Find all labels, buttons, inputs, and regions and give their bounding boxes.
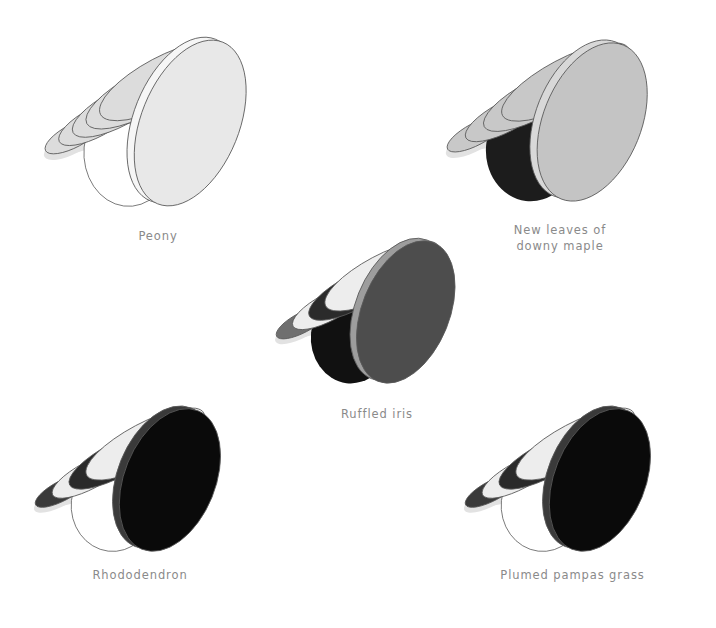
figure-peony xyxy=(18,18,298,228)
figure-plumed-pampas-grass xyxy=(440,390,700,570)
illustration-canvas: PeonyNew leaves of downy mapleRuffled ir… xyxy=(0,0,716,628)
disc-stack-new-leaves-of-downy-maple xyxy=(420,22,700,222)
figure-ruffled-iris xyxy=(252,222,502,402)
figure-rhododendron xyxy=(10,390,270,570)
disc-stack-peony xyxy=(18,18,298,228)
disc-stack-rhododendron xyxy=(10,390,270,570)
disc-stack-ruffled-iris xyxy=(252,222,502,402)
figure-caption-plumed-pampas-grass: Plumed pampas grass xyxy=(450,567,695,583)
figure-caption-rhododendron: Rhododendron xyxy=(15,567,265,583)
figure-new-leaves-of-downy-maple xyxy=(420,22,700,222)
disc-stack-plumed-pampas-grass xyxy=(440,390,700,570)
